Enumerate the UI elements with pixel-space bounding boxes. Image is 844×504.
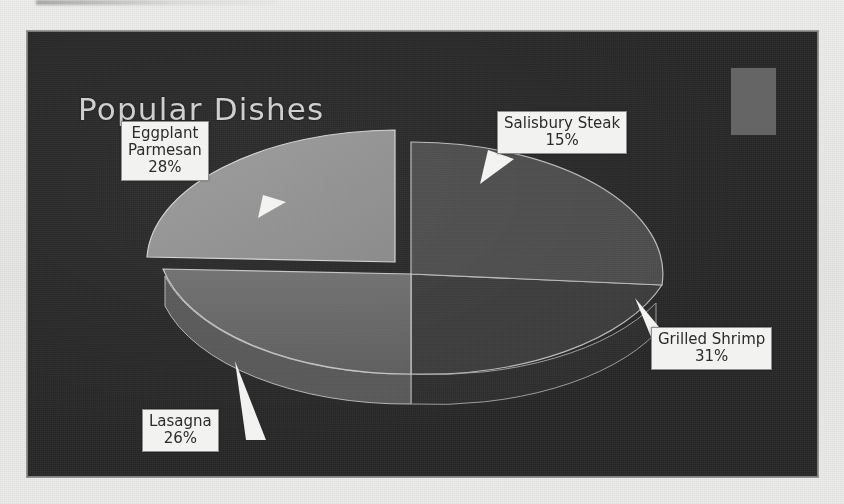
label-lasagna-value: 26%	[149, 430, 212, 447]
label-eggplant-parmesan-value: 28%	[128, 159, 202, 176]
gray-rectangle-decor	[731, 68, 776, 135]
top-edge-artifact	[36, 0, 276, 5]
screenshot-root: Popular Dishes Salisbury Steak 15% Eggpl…	[0, 0, 844, 504]
pie-slice-salisbury-steak[interactable]	[411, 142, 663, 285]
label-eggplant-parmesan-name-1: Eggplant	[132, 124, 199, 142]
label-eggplant-parmesan[interactable]: Eggplant Parmesan 28%	[121, 121, 209, 181]
label-grilled-shrimp[interactable]: Grilled Shrimp 31%	[651, 327, 772, 370]
label-grilled-shrimp-name: Grilled Shrimp	[658, 330, 765, 348]
pie-slice-grilled-shrimp[interactable]	[411, 274, 662, 374]
label-salisbury-steak-value: 15%	[504, 132, 620, 149]
label-eggplant-parmesan-name-2: Parmesan	[128, 142, 202, 159]
label-grilled-shrimp-value: 31%	[658, 348, 765, 365]
label-lasagna[interactable]: Lasagna 26%	[142, 409, 219, 452]
label-salisbury-steak-name: Salisbury Steak	[504, 114, 620, 132]
label-salisbury-steak[interactable]: Salisbury Steak 15%	[497, 111, 627, 154]
label-lasagna-name: Lasagna	[149, 412, 212, 430]
